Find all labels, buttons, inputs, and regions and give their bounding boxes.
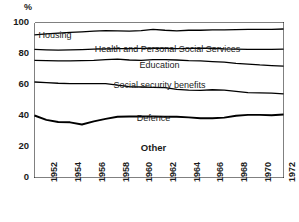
x-tick-label-1970: 1970 <box>264 161 273 181</box>
y-tick-label-0: 0 <box>3 172 29 182</box>
band-label-housing: Housing <box>39 30 72 40</box>
x-tick-label-1954: 1954 <box>74 161 83 181</box>
x-tick-label-1952: 1952 <box>50 161 59 181</box>
x-tick-label-1956: 1956 <box>98 161 107 181</box>
band-label-defence: Defence <box>4 113 299 123</box>
x-tick-label-1966: 1966 <box>216 161 225 181</box>
y-tick-label-100: 100 <box>3 17 29 27</box>
x-tick-label-1972: 1972 <box>288 161 297 181</box>
x-tick-label-1958: 1958 <box>122 161 131 181</box>
band-label-other: Other <box>4 143 299 153</box>
band-label-education: Education <box>10 60 299 70</box>
x-tick-label-1964: 1964 <box>193 161 202 181</box>
stacked-area-chart: % 020406080100 1952195419561958196019621… <box>0 0 299 222</box>
x-tick-label-1960: 1960 <box>145 161 154 181</box>
band-label-social-security-benefits: Social security benefits <box>10 80 299 90</box>
x-tick-label-1962: 1962 <box>169 161 178 181</box>
band-label-health-and-personal-social-services: Health and Personal Social Services <box>18 44 299 54</box>
x-tick-label-1968: 1968 <box>240 161 249 181</box>
